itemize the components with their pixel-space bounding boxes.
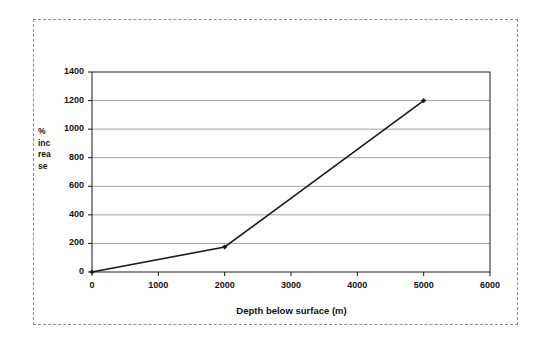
y-axis-title-line: inc [38, 138, 64, 150]
y-axis-tick-label: 200 [46, 237, 84, 247]
x-axis-title: Depth below surface (m) [92, 305, 491, 316]
y-axis-tick-label: 400 [46, 209, 84, 219]
x-axis-tick-label: 3000 [266, 280, 316, 290]
y-axis-tick-label: 600 [46, 180, 84, 190]
x-axis-tick-label: 6000 [465, 280, 515, 290]
chart-figure: 0200400600800100012001400 01000200030004… [0, 0, 533, 337]
x-axis-tick-label: 2000 [200, 280, 250, 290]
y-axis-title-line: % [38, 126, 64, 138]
y-axis-title: %increase [38, 126, 64, 172]
plot-area-background [92, 72, 490, 272]
y-axis-tick-label: 1400 [46, 66, 84, 76]
x-axis-ticks [92, 272, 490, 276]
x-axis-tick-label: 0 [67, 280, 117, 290]
x-axis-tick-label: 4000 [332, 280, 382, 290]
y-axis-title-line: rea [38, 149, 64, 161]
x-axis-tick-label: 1000 [133, 280, 183, 290]
y-axis-title-line: se [38, 161, 64, 173]
y-axis-tick-label: 1200 [46, 95, 84, 105]
y-axis-ticks [88, 72, 92, 272]
x-axis-tick-label: 5000 [399, 280, 449, 290]
y-axis-tick-label: 0 [46, 266, 84, 276]
